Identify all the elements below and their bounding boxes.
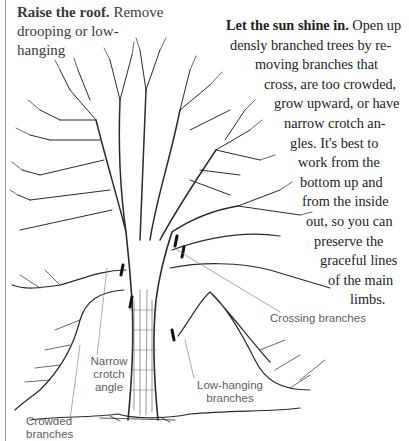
label-crossing-branches: Crossing branches xyxy=(270,312,366,325)
sun-line-10: from the inside xyxy=(220,192,406,212)
sun-line-5: grow upward, or have xyxy=(220,94,406,114)
narrow-crotch-line-3: angle xyxy=(95,381,123,393)
raise-roof-caption: Raise the roof. Remove drooping or low- … xyxy=(17,3,167,60)
label-narrow-crotch-angle: Narrow crotch angle xyxy=(84,355,134,394)
sun-line-8: work from the xyxy=(220,153,406,173)
sun-line-14: of the main xyxy=(220,271,406,291)
sun-line-3: moving branches that xyxy=(220,55,406,75)
crowded-line-1: Crowded xyxy=(26,415,72,427)
raise-roof-line-2: drooping or low- xyxy=(17,23,119,39)
sun-line-4: cross, are too crowded, xyxy=(220,75,406,95)
raise-roof-line-3: hanging xyxy=(17,42,65,58)
sun-line-13: graceful lines xyxy=(220,251,406,271)
sun-line-1: Let the sun shine in. Open up xyxy=(220,16,406,36)
sun-line-11: out, so you can xyxy=(220,212,406,232)
raise-roof-line-1: Remove xyxy=(113,4,163,20)
sun-shine-caption: Let the sun shine in. Open up densly bra… xyxy=(220,16,406,310)
narrow-crotch-line-2: crotch xyxy=(93,368,124,380)
sun-line-15: limbs. xyxy=(220,290,406,310)
sun-line-6: narrow crotch an- xyxy=(220,114,406,134)
label-crowded-branches: Crowded branches xyxy=(26,415,73,441)
low-hanging-line-1: Low-hanging xyxy=(197,379,263,391)
narrow-crotch-line-1: Narrow xyxy=(90,355,127,367)
sun-line-7: gles. It's best to xyxy=(220,134,406,154)
raise-roof-heading: Raise the roof. xyxy=(17,4,110,20)
crowded-line-2: branches xyxy=(26,428,73,440)
label-low-hanging-branches: Low-hanging branches xyxy=(190,379,270,405)
sun-line-12: preserve the xyxy=(220,232,406,252)
sun-shine-heading: Let the sun shine in. xyxy=(226,17,349,33)
sun-line-2: densly branched trees by re- xyxy=(220,36,406,56)
sun-line-9: bottom up and xyxy=(220,173,406,193)
low-hanging-line-2: branches xyxy=(206,392,253,404)
